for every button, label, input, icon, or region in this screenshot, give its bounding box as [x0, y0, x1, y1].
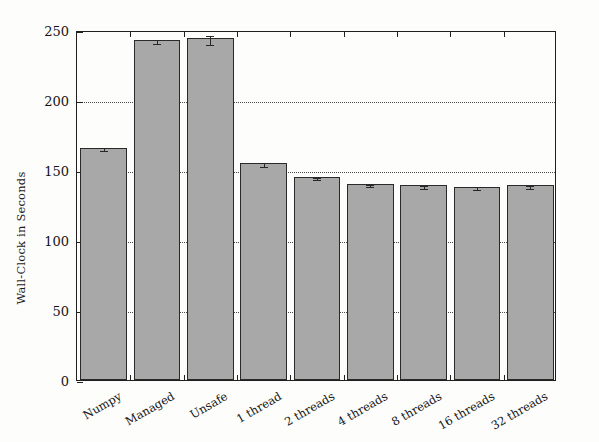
error-bar-cap [420, 189, 428, 190]
y-tick-label: 0 [9, 374, 69, 389]
x-tick-label: Unsafe [188, 389, 230, 422]
error-bar-cap [366, 185, 374, 186]
x-tick-mark [397, 32, 398, 37]
x-tick-label: 16 threads [436, 389, 497, 432]
x-tick-mark [344, 32, 345, 37]
y-tick-mark [77, 32, 83, 33]
error-bar-cap [366, 187, 374, 188]
error-bar-cap [153, 40, 161, 41]
error-bar-cap [526, 186, 534, 187]
x-tick-mark [290, 32, 291, 37]
y-tick-label: 100 [9, 234, 69, 249]
x-tick-mark [397, 375, 398, 380]
bar [187, 38, 234, 380]
x-tick-mark [184, 32, 185, 37]
error-bar-cap [206, 36, 214, 37]
bar-chart-figure: Wall-Clock in Seconds 050100150200250 Nu… [0, 0, 599, 442]
error-bar-cap [473, 190, 481, 191]
x-tick-label: 32 threads [489, 389, 550, 432]
x-tick-mark [344, 375, 345, 380]
bar [80, 148, 127, 380]
y-tick-label: 200 [9, 94, 69, 109]
x-tick-label: 8 threads [389, 389, 444, 429]
y-tick-mark [77, 102, 83, 103]
x-tick-labels: NumpyManagedUnsafe1 thread2 threads4 thr… [76, 385, 556, 442]
y-tick-label: 50 [9, 304, 69, 319]
error-bar-cap [420, 186, 428, 187]
y-tick-label: 250 [9, 24, 69, 39]
error-bar-cap [260, 167, 268, 168]
bar [294, 177, 341, 380]
error-bar-cap [100, 151, 108, 152]
x-tick-mark [504, 32, 505, 37]
error-bar-cap [526, 189, 534, 190]
plot-area [76, 31, 556, 381]
error-bar-cap [260, 163, 268, 164]
error-bar-cap [473, 187, 481, 188]
x-tick-label: 1 thread [234, 389, 284, 426]
bar [134, 40, 181, 380]
x-tick-mark [184, 375, 185, 380]
x-tick-label: Managed [123, 389, 177, 428]
y-tick-label: 150 [9, 164, 69, 179]
bar [347, 184, 394, 380]
error-bar [210, 36, 211, 46]
x-tick-label: 4 threads [335, 389, 390, 429]
bar [240, 163, 287, 380]
bar [454, 187, 501, 380]
bar [400, 185, 447, 380]
x-tick-mark [450, 32, 451, 37]
x-tick-mark [290, 375, 291, 380]
x-tick-mark [130, 32, 131, 37]
y-tick-mark [77, 382, 83, 383]
x-tick-mark [237, 32, 238, 37]
error-bar-cap [100, 148, 108, 149]
x-tick-mark [504, 375, 505, 380]
x-tick-label: 2 threads [282, 389, 337, 429]
error-bar-cap [206, 45, 214, 46]
x-tick-mark [130, 375, 131, 380]
bar [507, 185, 554, 380]
x-tick-label: Numpy [80, 389, 124, 422]
x-tick-mark [237, 375, 238, 380]
error-bar-cap [313, 180, 321, 181]
x-tick-mark [450, 375, 451, 380]
error-bar-cap [153, 44, 161, 45]
error-bar-cap [313, 178, 321, 179]
